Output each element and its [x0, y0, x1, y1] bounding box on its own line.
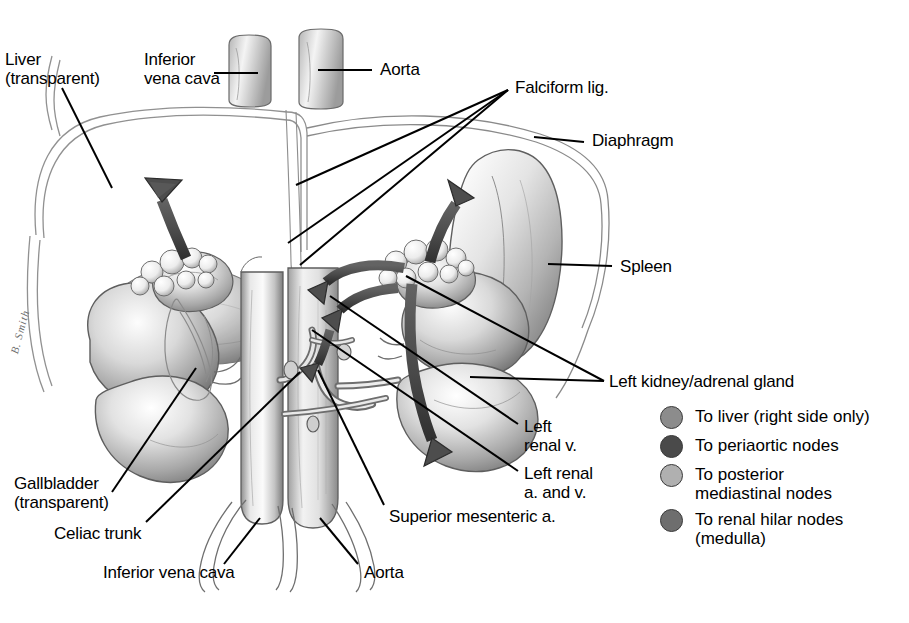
- legend-label-to-periaortic-nodes: To periaortic nodes: [695, 435, 839, 455]
- anatomical-figure: B. Smith Liver (transparent) Inferior ve…: [0, 0, 909, 623]
- legend-label-to-posterior-mediastinal-nodes: To posterior mediastinal nodes: [695, 464, 832, 503]
- label-spleen: Spleen: [620, 257, 672, 276]
- label-left-renal-v: Left renal v.: [524, 417, 577, 455]
- label-liver: Liver (transparent): [5, 50, 100, 88]
- label-inferior-vena-cava-bottom: Inferior vena cava: [103, 563, 235, 582]
- legend-item-to-periaortic-nodes: To periaortic nodes: [660, 435, 905, 458]
- legend-item-to-posterior-mediastinal-nodes: To posterior mediastinal nodes: [660, 464, 905, 503]
- label-superior-mesenteric-a: Superior mesenteric a.: [389, 507, 556, 526]
- label-gallbladder: Gallbladder (transparent): [14, 474, 109, 512]
- label-diaphragm: Diaphragm: [592, 131, 673, 150]
- legend-item-to-liver: To liver (right side only): [660, 406, 905, 429]
- legend-swatch-to-periaortic-nodes: [660, 435, 683, 458]
- label-inferior-vena-cava-top: Inferior vena cava: [144, 50, 220, 88]
- inferior-vena-cava-cross-section: [229, 35, 271, 107]
- label-aorta-bottom: Aorta: [364, 563, 404, 582]
- legend-swatch-to-renal-hilar-nodes: [660, 509, 683, 532]
- label-left-renal-a-and-v: Left renal a. and v.: [524, 464, 593, 502]
- label-aorta-top: Aorta: [380, 60, 420, 79]
- legend-item-to-renal-hilar-nodes: To renal hilar nodes (medulla): [660, 509, 905, 548]
- legend: To liver (right side only) To periaortic…: [660, 406, 905, 554]
- legend-swatch-to-liver: [660, 406, 683, 429]
- legend-swatch-to-posterior-mediastinal-nodes: [660, 464, 683, 487]
- label-falciform-lig: Falciform lig.: [515, 78, 609, 97]
- legend-label-to-liver: To liver (right side only): [695, 406, 870, 426]
- inferior-vena-cava-trunk: [241, 257, 283, 524]
- leader-inferior-vena-cava-bottom: [224, 518, 260, 564]
- label-celiac-trunk: Celiac trunk: [54, 524, 141, 543]
- legend-label-to-renal-hilar-nodes: To renal hilar nodes (medulla): [695, 509, 843, 548]
- arrow-to-liver-right: [145, 178, 186, 258]
- label-left-kidney-adrenal-gland: Left kidney/adrenal gland: [609, 372, 794, 391]
- leader-liver: [62, 88, 112, 188]
